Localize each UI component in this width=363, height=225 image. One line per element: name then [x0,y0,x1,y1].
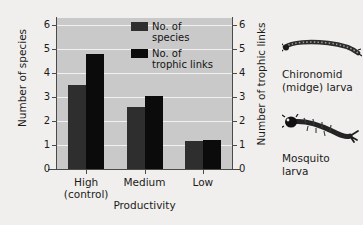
y-axis-left-line [56,17,57,170]
mosquito-larva-icon [282,114,362,144]
y-axis-right-tick-label: 6 [239,20,251,30]
figure: 0123456 0123456 High(control)MediumLow N… [0,0,363,225]
y-axis-right-tick-label: 1 [239,140,251,150]
legend: No. of species No. of trophic links [131,21,218,75]
y-axis-right-tick [233,49,237,50]
y-axis-left-tick-label: 2 [38,116,50,126]
category-label-line-1: Low [168,176,238,188]
legend-swatch-trophic-links [131,49,148,58]
illustration-mosquito-larva: Mosquito larva [282,114,362,177]
y-axis-left-tick-label: 1 [38,140,50,150]
caption-line-1: Chironomid [282,68,362,81]
y-axis-right-tick-label: 4 [239,68,251,78]
y-axis-left-tick-label: 4 [38,68,50,78]
y-axis-right-tick [233,145,237,146]
illustration-caption-chironomid: Chironomid (midge) larva [282,68,362,93]
x-axis-tick [145,170,146,174]
y-axis-right-tick [233,97,237,98]
y-axis-right-tick [233,121,237,122]
caption-line-2: (midge) larva [282,81,362,94]
bar [145,96,163,169]
bar [68,85,86,169]
y-axis-right-tick [233,73,237,74]
legend-swatch-species [131,22,148,31]
bar [203,140,221,169]
y-axis-left-tick [52,169,56,170]
y-axis-left-tick [52,121,56,122]
bar [86,54,104,169]
y-axis-left-tick [52,145,56,146]
y-axis-right-tick [233,25,237,26]
legend-label-trophic-links: No. of trophic links [152,48,218,70]
illustration-chironomid-midge-larva: Chironomid (midge) larva [282,38,362,93]
illustration-caption-mosquito: Mosquito larva [282,152,362,177]
y-axis-left-tick-label: 0 [38,164,50,174]
x-axis-category-label: Low [168,176,238,188]
legend-label-species: No. of species [152,21,218,43]
caption-line-1: Mosquito [282,152,362,165]
x-axis-tick [86,170,87,174]
y-axis-left-title: Number of species [16,18,28,138]
legend-item-species: No. of species [131,21,218,43]
y-axis-left-tick-label: 5 [38,44,50,54]
y-axis-left-tick [52,25,56,26]
bar [185,141,203,169]
y-axis-right-tick-label: 5 [239,44,251,54]
y-axis-right-tick [233,169,237,170]
x-axis-tick [203,170,204,174]
caption-line-2: larva [282,165,362,178]
y-axis-left-tick [52,49,56,50]
bar [127,107,145,169]
y-axis-right-tick-label: 3 [239,92,251,102]
legend-item-trophic-links: No. of trophic links [131,48,218,70]
y-axis-right-tick-label: 0 [239,164,251,174]
y-axis-left-tick [52,97,56,98]
y-axis-left-tick-label: 6 [38,20,50,30]
chironomid-larva-icon [282,38,362,60]
y-axis-right-tick-label: 2 [239,116,251,126]
y-axis-left-tick [52,73,56,74]
y-axis-left-tick-label: 3 [38,92,50,102]
y-axis-right-title: Number of trophic links [255,14,267,154]
x-axis-title: Productivity [57,199,232,211]
y-axis-right-line [232,17,233,170]
